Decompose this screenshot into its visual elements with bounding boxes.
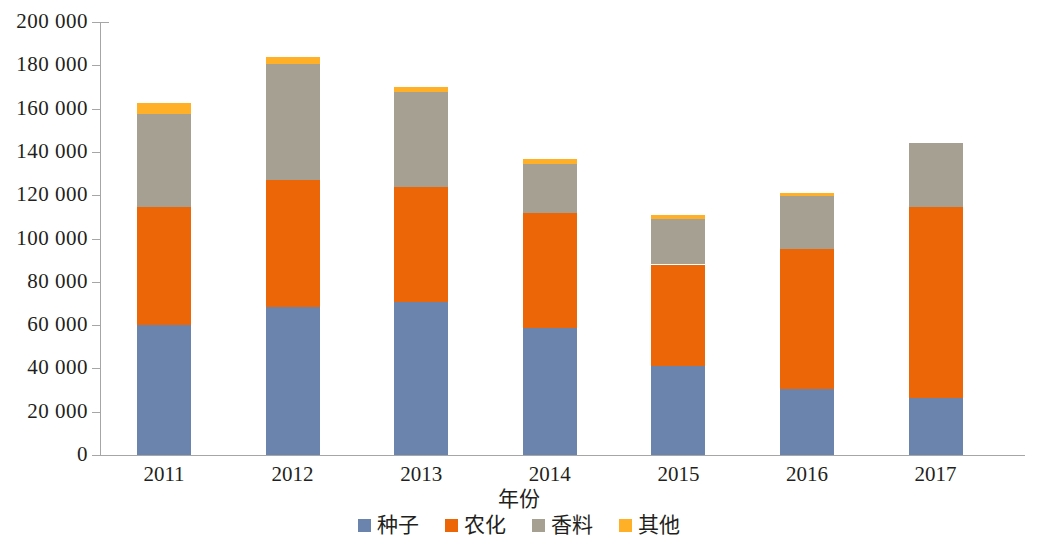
- y-axis-tick-label: 200 000: [0, 11, 88, 32]
- bar-segment: [780, 193, 834, 196]
- y-axis-tick-label: 100 000: [0, 228, 88, 249]
- bar-group: [266, 22, 320, 455]
- legend-label: 农化: [464, 514, 506, 537]
- bar-segment: [394, 87, 448, 92]
- legend-item[interactable]: 其他: [619, 514, 680, 537]
- bar-segment: [909, 207, 963, 398]
- bar-segment: [137, 325, 191, 455]
- legend-swatch-icon: [358, 519, 371, 532]
- legend-item[interactable]: 种子: [358, 514, 419, 537]
- bar-segment: [651, 219, 705, 264]
- bar-segment: [523, 159, 577, 163]
- y-axis-tick-label: 80 000: [0, 271, 88, 292]
- bar-group: [651, 22, 705, 455]
- legend-label: 种子: [377, 514, 419, 537]
- bar-segment: [651, 215, 705, 219]
- bar-group: [780, 22, 834, 455]
- bar-segment: [137, 207, 191, 325]
- bar-group: [137, 22, 191, 455]
- legend-swatch-icon: [445, 519, 458, 532]
- bar-group: [523, 22, 577, 455]
- legend-swatch-icon: [619, 519, 632, 532]
- x-axis-tick-label: 2014: [490, 462, 610, 486]
- y-axis-tick-label: 120 000: [0, 184, 88, 205]
- legend-swatch-icon: [532, 519, 545, 532]
- bar-segment: [266, 57, 320, 65]
- x-axis-tick-label: 2011: [104, 462, 224, 486]
- plot-area: [100, 22, 1025, 455]
- bar-segment: [780, 249, 834, 389]
- bar-segment: [137, 103, 191, 114]
- y-axis-tick-label: 0: [0, 444, 88, 465]
- stacked-bar-chart: 020 00040 00060 00080 000100 000120 0001…: [0, 0, 1037, 543]
- legend-item[interactable]: 农化: [445, 514, 506, 537]
- y-axis-tick-label: 60 000: [0, 314, 88, 335]
- bar-segment: [266, 64, 320, 180]
- x-axis-line: [100, 455, 1025, 456]
- legend-item[interactable]: 香料: [532, 514, 593, 537]
- bar-segment: [651, 366, 705, 455]
- x-axis-tick-label: 2013: [361, 462, 481, 486]
- y-axis-tick-label: 40 000: [0, 357, 88, 378]
- bar-group: [394, 22, 448, 455]
- bar-segment: [394, 92, 448, 186]
- y-axis-tick-label: 140 000: [0, 141, 88, 162]
- x-axis-tick-label: 2017: [876, 462, 996, 486]
- bar-segment: [394, 302, 448, 455]
- bar-segment: [523, 213, 577, 329]
- bar-segment: [780, 196, 834, 249]
- x-axis-title: 年份: [0, 487, 1037, 511]
- bar-segment: [137, 114, 191, 207]
- bar-segment: [523, 328, 577, 455]
- chart-legend: 种子农化香料其他: [0, 514, 1037, 537]
- bar-segment: [523, 164, 577, 213]
- legend-label: 香料: [551, 514, 593, 537]
- legend-label: 其他: [638, 514, 680, 537]
- y-axis-tick-label: 20 000: [0, 401, 88, 422]
- y-axis-tick-label: 160 000: [0, 98, 88, 119]
- bar-segment: [651, 265, 705, 367]
- x-axis-tick-label: 2012: [233, 462, 353, 486]
- bar-group: [909, 22, 963, 455]
- bar-segment: [394, 187, 448, 303]
- bar-segment: [909, 143, 963, 207]
- bar-segment: [266, 307, 320, 455]
- x-axis-tick-label: 2016: [747, 462, 867, 486]
- bar-segment: [780, 389, 834, 455]
- y-axis-tick-label: 180 000: [0, 54, 88, 75]
- bar-segment: [266, 180, 320, 307]
- y-axis-tick: [92, 455, 101, 456]
- bar-segment: [909, 398, 963, 455]
- x-axis-tick-label: 2015: [618, 462, 738, 486]
